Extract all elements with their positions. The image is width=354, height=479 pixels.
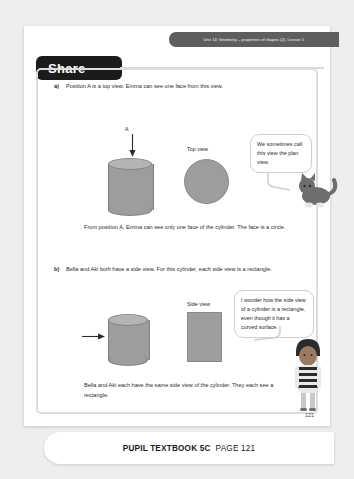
textbook-page: Unit 14: Geometry – properties of shapes… — [24, 26, 330, 426]
footer-text: PUPIL TEXTBOOK 5CPAGE 121 — [123, 444, 256, 453]
down-arrow-icon — [128, 134, 137, 158]
child-character-illustration — [286, 336, 330, 412]
cylinder-bottom-ellipse — [108, 354, 148, 366]
part-a-question: a) Position A is a top view. Emma can se… — [66, 82, 316, 92]
footer-book-title: PUPIL TEXTBOOK 5C — [123, 444, 211, 453]
right-arrow-icon — [82, 332, 106, 341]
side-view-label: Side view — [187, 301, 210, 307]
part-a-question-text: Position A is a top view. Emma can see o… — [66, 83, 223, 89]
unit-header-text: Unit 14: Geometry – properties of shapes… — [204, 37, 305, 41]
footer-banner: PUPIL TEXTBOOK 5CPAGE 121 — [44, 432, 334, 464]
content-panel — [36, 68, 318, 414]
cylinder-figure-side-view — [108, 314, 148, 366]
page-number: 121 — [305, 412, 314, 418]
part-a-marker: a) — [54, 82, 59, 92]
part-b-conclusion: Bella and Aki each have the same side vi… — [84, 381, 299, 401]
part-b-question-text: Bella and Aki both have a side view. For… — [66, 266, 272, 272]
part-b-question: b) Bella and Aki both have a side view. … — [66, 265, 298, 275]
top-view-circle-shape — [184, 159, 229, 204]
cat-illustration — [296, 166, 340, 210]
screenshot-canvas: Unit 14: Geometry – properties of shapes… — [0, 0, 354, 479]
position-a-label: A — [125, 126, 128, 132]
cylinder-bottom-ellipse — [108, 204, 152, 216]
speech-bubble-tail-icon — [266, 172, 292, 192]
cylinder-top-ellipse — [108, 314, 148, 326]
speech-bubble-curved-surface-text: I wonder how the side view of a cylinder… — [241, 297, 306, 330]
cylinder-top-ellipse — [108, 158, 152, 170]
footer-page-label: PAGE 121 — [216, 444, 256, 453]
part-b-marker: b) — [54, 265, 59, 275]
speech-bubble-tail-icon — [252, 326, 282, 342]
part-a-conclusion: From position A, Emma can see only one f… — [84, 223, 319, 233]
side-view-rectangle-shape — [187, 312, 222, 362]
top-view-label: Top view — [187, 146, 208, 152]
cylinder-figure-top-view — [108, 158, 152, 216]
speech-bubble-plan-view-text: We sometimes call this view the plan vie… — [257, 141, 302, 165]
unit-header-strip: Unit 14: Geometry – properties of shapes… — [169, 32, 339, 47]
